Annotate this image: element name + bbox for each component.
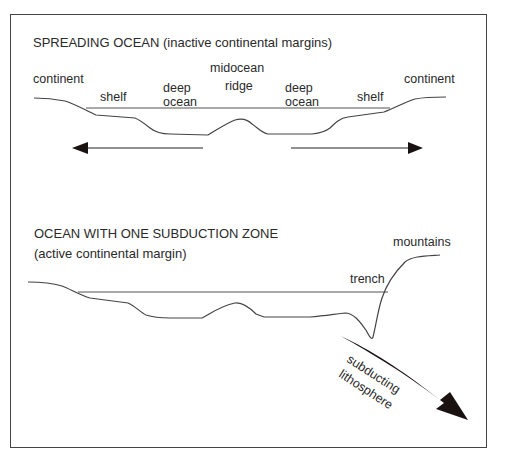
- label-shelf-left: shelf: [100, 90, 126, 104]
- label-deep-ocean-right-line1: deep: [285, 81, 313, 95]
- label-deep-ocean-left-line1: deep: [163, 81, 191, 95]
- label-midocean: midocean: [210, 61, 264, 75]
- label-continent-left: continent: [33, 72, 84, 86]
- label-trench: trench: [350, 272, 385, 286]
- label-continent-right: continent: [404, 72, 455, 86]
- label-deep-ocean-right-line2: ocean: [285, 95, 319, 109]
- label-shelf-right: shelf: [357, 90, 383, 104]
- subduction-title-line1: OCEAN WITH ONE SUBDUCTION ZONE: [34, 226, 278, 241]
- spreading-ocean-profile: [34, 97, 446, 154]
- sea-floor-line: [28, 255, 440, 338]
- spreading-arrow-right-icon: [291, 142, 423, 154]
- sea-floor-line: [34, 97, 446, 135]
- label-mountains: mountains: [393, 235, 451, 249]
- spreading-arrow-left-icon: [72, 142, 203, 154]
- subduction-title-line2: (active continental margin): [34, 246, 186, 261]
- label-deep-ocean-left-line2: ocean: [163, 95, 197, 109]
- label-ridge: ridge: [225, 79, 253, 93]
- spreading-ocean-title: SPREADING OCEAN (inactive continental ma…: [33, 35, 332, 50]
- subduction-ocean-profile: [28, 255, 468, 420]
